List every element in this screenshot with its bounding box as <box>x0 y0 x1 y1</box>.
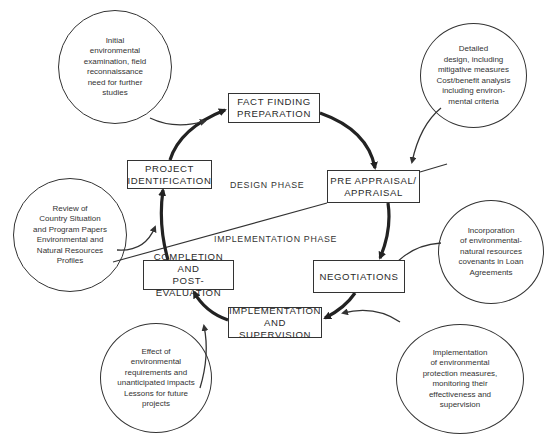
note-line: Effect of <box>117 347 194 358</box>
note-line: Natural Resources <box>33 246 107 257</box>
note-line: need for further <box>84 78 146 89</box>
note-circle-fact-finding: Initial environmental examination, field… <box>58 10 172 124</box>
note-line: environmental <box>84 46 146 57</box>
note-circle-negotiations: Incorporation of environmental- natural … <box>438 200 544 304</box>
implementation-phase-label: IMPLEMENTATION PHASE <box>214 234 337 244</box>
stage-label: IDENTIFICATION <box>128 175 212 187</box>
note-line: including environ- <box>437 86 511 97</box>
note-line: design, including <box>437 55 511 66</box>
stage-pre-appraisal: PRE APPRAISAL/ APPRAISAL <box>327 170 420 203</box>
note-line: Lessons for future <box>117 389 194 400</box>
arrow-note-to-preappraisal <box>412 108 441 162</box>
note-line: mitigative measures <box>437 65 511 76</box>
note-line: examination, field <box>84 57 146 68</box>
stage-label: FACT FINDING <box>237 96 311 108</box>
note-line: natural resources <box>459 247 524 258</box>
note-line: unanticipated impacts <box>117 378 194 389</box>
note-line: of environmental- <box>459 236 524 247</box>
note-line: Implementation <box>423 348 498 359</box>
note-line: monitoring their <box>423 379 498 390</box>
note-line: supervision <box>423 400 498 411</box>
note-line: Country Situation <box>33 214 107 225</box>
stage-label: AND SUPERVISION <box>229 317 321 341</box>
arrow-preappraisal-to-negotiations <box>380 203 389 258</box>
note-line: environmental <box>117 357 194 368</box>
note-line: and Program Papers <box>33 225 107 236</box>
stage-label: NEGOTIATIONS <box>320 271 399 283</box>
stage-label: APPRAISAL <box>344 187 403 199</box>
stage-label: PRE APPRAISAL/ <box>330 175 416 187</box>
stage-label: IMPLEMENTATION <box>229 305 321 317</box>
note-line: Profiles <box>33 256 107 267</box>
note-circle-pre-appraisal: Detailed design, including mitigative me… <box>420 23 527 128</box>
stage-label: PREPARATION <box>237 108 311 120</box>
note-line: projects <box>117 399 194 410</box>
note-line: effectiveness and <box>423 390 498 401</box>
design-phase-label: DESIGN PHASE <box>230 180 304 190</box>
note-line: Environmental and <box>33 235 107 246</box>
note-line: reconnaissance <box>84 67 146 78</box>
arrow-negotiations-to-implementation <box>325 293 355 318</box>
stage-implementation: IMPLEMENTATION AND SUPERVISION <box>228 307 322 338</box>
arrow-identification-to-factfinding <box>170 110 225 160</box>
note-line: Cost/benefit analysis <box>437 76 511 87</box>
note-line: covenants in Loan <box>459 257 524 268</box>
note-line: Incorporation <box>459 226 524 237</box>
note-line: Review of <box>33 204 107 215</box>
arrow-completion-to-identification <box>161 190 168 260</box>
stage-fact-finding: FACT FINDING PREPARATION <box>228 93 320 123</box>
note-line: Agreements <box>459 268 524 279</box>
note-line: Detailed <box>437 44 511 55</box>
stage-negotiations: NEGOTIATIONS <box>313 260 405 293</box>
arrow-factfinding-to-preappraisal <box>320 113 375 168</box>
note-line: requirements and <box>117 368 194 379</box>
stage-label: POST-EVALUATION <box>144 275 233 299</box>
note-circle-identification: Review of Country Situation and Program … <box>13 178 127 292</box>
note-line: mental criteria <box>437 97 511 108</box>
note-line: studies <box>84 88 146 99</box>
note-circle-implementation: Implementation of environmental protecti… <box>396 324 524 434</box>
phase-divider-line-right <box>420 164 447 172</box>
stage-label: PROJECT <box>145 163 194 175</box>
stage-identification: PROJECT IDENTIFICATION <box>127 160 212 189</box>
note-line: protection measures, <box>423 369 498 380</box>
note-circle-completion: Effect of environmental requirements and… <box>100 323 212 433</box>
note-line: of environmental <box>423 358 498 369</box>
note-line: Initial <box>84 36 146 47</box>
arrow-note-to-implementation <box>343 310 400 322</box>
stage-completion: COMPLETION AND POST-EVALUATION <box>143 260 234 290</box>
stage-label: COMPLETION AND <box>144 251 233 275</box>
